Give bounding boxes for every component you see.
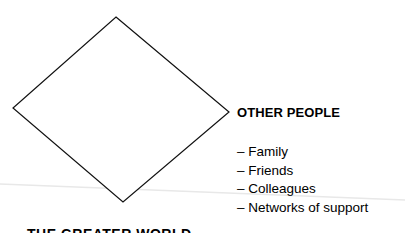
list-item: – Family — [237, 143, 368, 162]
list-item: – Networks of support — [237, 199, 368, 218]
list-item: – Friends — [237, 162, 368, 181]
other-people-list: – Family – Friends – Colleagues – Networ… — [237, 143, 368, 217]
list-item: – Colleagues — [237, 180, 368, 199]
diamond-shape — [13, 17, 229, 202]
greater-world-heading: THE GREATER WORLD — [27, 226, 192, 233]
other-people-heading: OTHER PEOPLE — [237, 105, 340, 120]
